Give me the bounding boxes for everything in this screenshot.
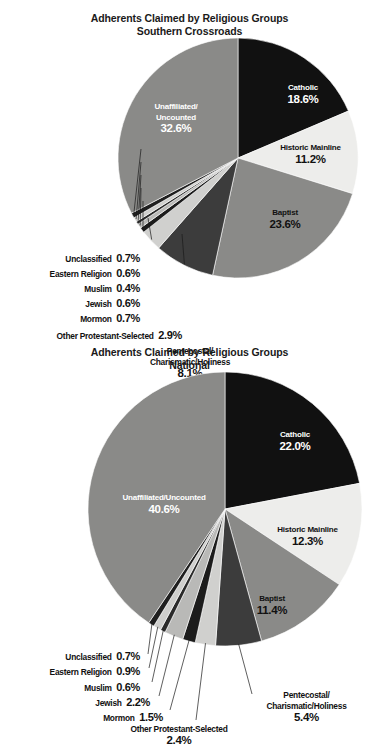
outer-label-eastern-religion-2: Eastern Religion 0.9% (0, 664, 140, 678)
outer-pct-eastern-religion-2: 0.9% (116, 665, 140, 677)
outer-name-mormon-2: Mormon (103, 713, 135, 723)
leader-line (159, 635, 174, 696)
outer-label-pentecostal-2: Pentecostal/ Charismatic/Holiness 5.4% (239, 690, 374, 723)
outer-name-jewish-2: Jewish (95, 698, 121, 708)
outer-label-unclassified: Unclassified 0.7% (0, 251, 140, 265)
outer-label-mormon-2: Mormon 1.5% (0, 710, 163, 724)
slice-label-historic-mainline-2: Historic Mainline 12.3% (255, 525, 360, 546)
outer-pct-mormon-2: 1.5% (139, 711, 163, 723)
outer-pct-unclassified: 0.7% (116, 252, 140, 264)
outer-pct-mormon: 0.7% (116, 312, 140, 324)
chart-national: Adherents Claimed by Religious Groups Na… (0, 330, 379, 739)
outer-label-jewish: Jewish 0.6% (0, 296, 140, 310)
outer-pct-muslim-2: 0.6% (116, 681, 140, 693)
outer-name-mormon: Mormon (80, 314, 112, 324)
chart-2-subtitle: National (0, 359, 379, 372)
slice-name-historic-mainline: Historic Mainline (258, 143, 363, 154)
outer-pct-pentecostal-2: 5.4% (239, 712, 374, 723)
slice-label-unaffiliated: Unaffiliated/ Uncounted 32.6% (124, 102, 228, 134)
leader-line (170, 640, 189, 710)
outer-name-muslim-2: Muslim (84, 683, 111, 693)
slice-pct-catholic: 18.6% (258, 94, 348, 105)
chart-southern-crossroads: Adherents Claimed by Religious Groups So… (0, 0, 379, 330)
slice-pct-historic-mainline-2: 12.3% (255, 536, 360, 547)
slice-pct-catholic-2: 22.0% (250, 441, 340, 452)
outer-label-unclassified-2: Unclassified 0.7% (0, 649, 140, 663)
outer-pct-muslim: 0.4% (116, 282, 140, 294)
slice-label-baptist-2: Baptist 11.4% (232, 594, 312, 615)
outer-pct-jewish: 0.6% (116, 297, 140, 309)
outer-label-muslim: Muslim 0.4% (0, 281, 140, 295)
outer-pct-unclassified-2: 0.7% (116, 650, 140, 662)
slice-name-catholic: Catholic (258, 83, 348, 94)
slice-pct-baptist: 23.6% (245, 219, 325, 230)
slice-name-historic-mainline-2: Historic Mainline (255, 525, 360, 536)
slice-name-unaffiliated-line1: Unaffiliated/ (124, 102, 228, 113)
slice-pct-unaffiliated-2: 40.6% (94, 504, 234, 515)
pie-chart-2: Catholic 22.0% Historic Mainline 12.3% B… (0, 372, 379, 722)
leader-line (239, 644, 252, 694)
slice-name-baptist-2: Baptist (232, 594, 312, 605)
outer-pct-other-protestant-2: 2.4% (84, 735, 274, 746)
leader-line (152, 630, 163, 682)
chart-2-title: Adherents Claimed by Religious Groups Na… (0, 330, 379, 372)
outer-label-eastern-religion: Eastern Religion 0.6% (0, 266, 140, 280)
chart-1-title: Adherents Claimed by Religious Groups So… (0, 0, 379, 38)
pie-chart-1: Catholic 18.6% Historic Mainline 11.2% B… (0, 38, 379, 323)
chart-2-title-line1: Adherents Claimed by Religious Groups (0, 346, 379, 359)
outer-name-eastern-religion: Eastern Religion (50, 269, 112, 279)
slice-label-unaffiliated-2: Unaffiliated/Uncounted 40.6% (94, 493, 234, 514)
slice-label-baptist: Baptist 23.6% (245, 208, 325, 229)
outer-name-eastern-religion-2: Eastern Religion (50, 667, 112, 677)
slice-label-catholic-2: Catholic 22.0% (250, 430, 340, 451)
chart-1-subtitle: Southern Crossroads (0, 25, 379, 38)
outer-name-unclassified: Unclassified (65, 254, 111, 264)
outer-label-muslim-2: Muslim 0.6% (0, 680, 140, 694)
chart-1-title-line1: Adherents Claimed by Religious Groups (0, 12, 379, 25)
slice-name-catholic-2: Catholic (250, 430, 340, 441)
outer-label-other-protestant-2: Other Protestant-Selected 2.4% (84, 724, 274, 746)
leader-line (196, 643, 206, 720)
slice-pct-baptist-2: 11.4% (232, 605, 312, 616)
outer-name-jewish: Jewish (85, 299, 111, 309)
slice-label-catholic: Catholic 18.6% (258, 83, 348, 104)
leader-line (148, 623, 152, 654)
outer-name-unclassified-2: Unclassified (65, 652, 111, 662)
slice-pct-historic-mainline: 11.2% (258, 154, 363, 165)
slice-pct-unaffiliated: 32.6% (124, 123, 228, 134)
outer-label-jewish-2: Jewish 2.2% (0, 695, 150, 709)
outer-name-pentecostal-2-line1: Pentecostal/ (239, 690, 374, 701)
slice-name-unaffiliated-2: Unaffiliated/Uncounted (94, 493, 234, 504)
slice-name-baptist: Baptist (245, 208, 325, 219)
slice-label-historic-mainline: Historic Mainline 11.2% (258, 143, 363, 164)
outer-label-mormon: Mormon 0.7% (0, 311, 140, 325)
outer-name-muslim: Muslim (84, 284, 111, 294)
outer-pct-eastern-religion: 0.6% (116, 267, 140, 279)
